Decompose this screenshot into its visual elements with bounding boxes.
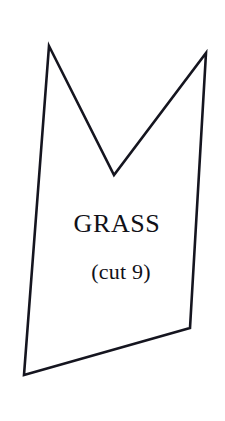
pattern-sheet: GRASS (cut 9) — [0, 0, 225, 421]
pattern-piece-name-label: GRASS — [74, 209, 161, 238]
pattern-piece-diagram: GRASS (cut 9) — [0, 0, 225, 421]
pattern-piece-quantity-label: (cut 9) — [91, 259, 150, 284]
